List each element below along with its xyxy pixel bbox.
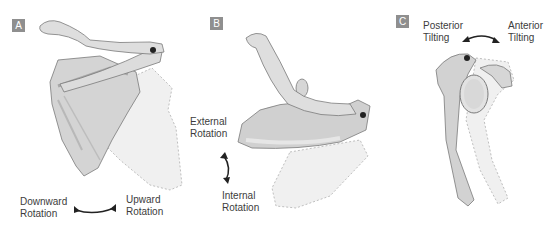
panel-b: B External Rotation Internal Rotation — [190, 0, 380, 230]
label-posterior-tilting: Posterior Tilting — [423, 20, 463, 44]
scapula-b-illustration — [190, 0, 380, 230]
pivot-dot-b — [360, 112, 366, 118]
label-anterior-tilting: Anterior Tilting — [508, 20, 543, 44]
pivot-dot-a — [150, 47, 156, 53]
pivot-dot-c — [464, 55, 470, 61]
label-internal-rotation: Internal Rotation — [222, 190, 259, 214]
label-downward-rotation: Downward Rotation — [20, 196, 67, 220]
label-upward-rotation: Upward Rotation — [126, 194, 163, 218]
label-external-rotation: External Rotation — [190, 116, 227, 140]
panel-a: A Downward Rotation Upward Rotation — [0, 0, 190, 230]
panel-c: C Posterior Tilting Anterior Tilting — [380, 0, 556, 230]
